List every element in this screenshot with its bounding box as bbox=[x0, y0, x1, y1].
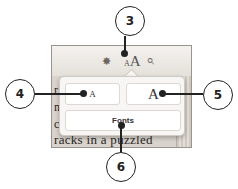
callout-dot bbox=[118, 122, 125, 129]
callout-dot bbox=[80, 90, 87, 97]
book-reader-window: r n c racks in a puzzled ✸ AA ⌕ A A Font… bbox=[51, 45, 192, 148]
callout-6: 6 bbox=[106, 152, 136, 182]
large-a-icon: A bbox=[130, 53, 141, 69]
callout-line bbox=[163, 93, 203, 95]
brightness-icon[interactable]: ✸ bbox=[102, 55, 111, 68]
callout-dot bbox=[121, 50, 128, 57]
small-a-label: A bbox=[89, 89, 96, 99]
callout-line bbox=[120, 125, 122, 152]
callout-dot bbox=[159, 90, 166, 97]
callout-line bbox=[35, 93, 83, 95]
search-icon[interactable]: ⌕ bbox=[146, 52, 154, 69]
callout-3: 3 bbox=[115, 6, 145, 36]
callout-4: 4 bbox=[5, 79, 35, 109]
large-a-label: A bbox=[148, 86, 159, 103]
callout-5: 5 bbox=[203, 80, 233, 110]
